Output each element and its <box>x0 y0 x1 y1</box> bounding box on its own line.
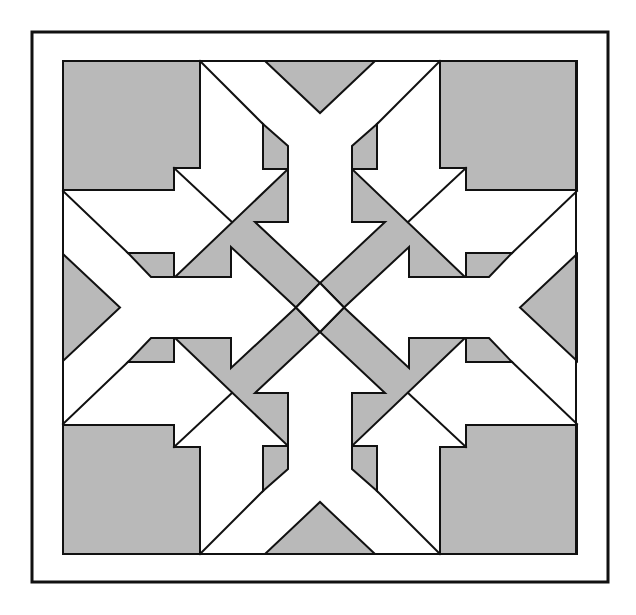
quilt-block-diagram <box>0 0 636 615</box>
